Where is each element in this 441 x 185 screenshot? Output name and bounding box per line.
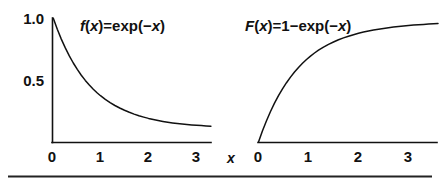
right-formula-annotation: F(x)=1−exp(−x) [245, 17, 351, 34]
right-xtick-label-3: 3 [404, 148, 412, 165]
right-formula-lead-minus: − [290, 17, 299, 34]
left-xtick-label-2: 2 [144, 148, 152, 165]
left-ytick-label-1: 1.0 [23, 10, 44, 27]
right-curve-exp-cdf [259, 24, 439, 142]
left-formula-close-eq: )= [98, 17, 112, 34]
right-xtick-label-0: 0 [254, 148, 262, 165]
right-panel: 0 1 2 3 F(x)=1−exp(−x) [245, 17, 438, 165]
exponential-pdf-cdf-figure: 1.0 0.5 0 1 2 3 f(x)=exp(−x) x 0 1 2 3 [0, 0, 441, 185]
left-panel: 1.0 0.5 0 1 2 3 f(x)=exp(−x) [23, 10, 211, 165]
right-formula-close-eq: )=1 [268, 17, 290, 34]
left-formula-body-pre: exp( [112, 17, 143, 34]
left-formula-minus: − [143, 17, 152, 34]
figure-container: 1.0 0.5 0 1 2 3 f(x)=exp(−x) x 0 1 2 3 [0, 0, 441, 185]
x-axis-label: x [226, 150, 236, 166]
left-formula-annotation: f(x)=exp(−x) [80, 17, 165, 34]
right-formula-minus: − [329, 17, 338, 34]
left-formula-body-close: ) [160, 17, 165, 34]
right-formula-body-pre: exp( [298, 17, 329, 34]
left-ytick-label-0: 0.5 [23, 72, 44, 89]
left-xtick-label-3: 3 [192, 148, 200, 165]
right-xtick-label-2: 2 [354, 148, 362, 165]
left-xtick-label-0: 0 [48, 148, 56, 165]
right-xtick-label-1: 1 [304, 148, 312, 165]
left-xtick-label-1: 1 [96, 148, 104, 165]
left-curve-exp-decay [53, 18, 211, 126]
right-formula-body-close: ) [346, 17, 351, 34]
